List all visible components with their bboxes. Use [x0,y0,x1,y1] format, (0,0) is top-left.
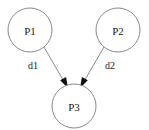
node-p3[interactable]: P3 [52,84,96,128]
node-p2-label: P2 [112,25,124,37]
node-p1-label: P1 [24,25,36,37]
directed-graph: d1 d2 P1 P2 P3 [0,0,149,130]
edge-d2-label: d2 [105,60,115,71]
node-p3-label: P3 [68,101,80,113]
edge-d2[interactable]: d2 [80,47,115,88]
edge-d2-line [84,47,104,82]
diagram-canvas: d1 d2 P1 P2 P3 [0,0,149,130]
node-p1[interactable]: P1 [8,8,52,52]
edge-d1-line [44,47,64,82]
edge-d1-label: d1 [28,60,38,71]
node-p2[interactable]: P2 [96,8,140,52]
edge-d1[interactable]: d1 [28,47,68,88]
